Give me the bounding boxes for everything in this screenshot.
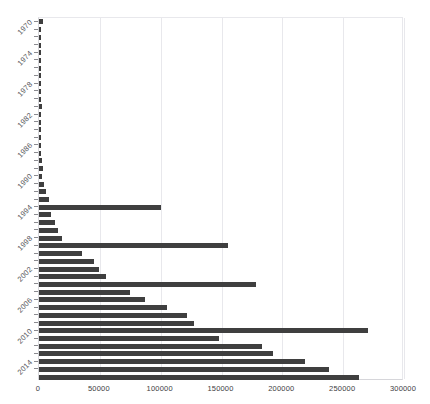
bar-1980: [39, 97, 41, 102]
bar-1985: [39, 135, 41, 140]
gridline-300000: [404, 18, 405, 379]
y-tick-1973: [34, 44, 38, 45]
bar-2007: [39, 305, 167, 310]
bar-1993: [39, 197, 49, 202]
y-tick-2004: [34, 283, 38, 284]
bar-1981: [39, 104, 42, 109]
bar-2010: [39, 328, 368, 333]
y-tick-2013: [34, 353, 38, 354]
y-tick-1979: [34, 90, 38, 91]
bar-1970: [39, 19, 43, 24]
y-axis-label-1998: 1998: [15, 234, 34, 253]
y-tick-1988: [34, 160, 38, 161]
bar-1995: [39, 212, 51, 217]
bar-2008: [39, 313, 187, 318]
y-tick-1975: [34, 59, 38, 60]
x-axis-label-300000: 300000: [390, 384, 416, 393]
bar-2001: [39, 259, 94, 264]
y-axis-label-1982: 1982: [15, 110, 34, 129]
y-tick-2012: [34, 345, 38, 346]
bar-2015: [39, 367, 329, 372]
y-tick-1972: [34, 36, 38, 37]
bar-1975: [39, 58, 41, 63]
bar-1990: [39, 174, 42, 179]
bar-1983: [39, 120, 41, 125]
y-axis-label-2002: 2002: [15, 265, 34, 284]
y-tick-1990: [34, 175, 38, 176]
y-axis-label-1978: 1978: [15, 79, 34, 98]
y-tick-1994: [34, 206, 38, 207]
bar-1994: [39, 205, 161, 210]
bar-2005: [39, 290, 130, 295]
y-tick-1987: [34, 152, 38, 153]
y-tick-1993: [34, 199, 38, 200]
bar-2000: [39, 251, 82, 256]
bar-2013: [39, 351, 273, 356]
bar-1986: [39, 143, 41, 148]
x-axis-label-250000: 250000: [329, 384, 355, 393]
bar-1999: [39, 243, 228, 248]
x-axis-label-50000: 50000: [88, 384, 110, 393]
y-tick-1996: [34, 222, 38, 223]
bar-1974: [39, 50, 41, 55]
bar-1977: [39, 73, 41, 78]
bar-2006: [39, 297, 145, 302]
y-tick-1997: [34, 229, 38, 230]
y-tick-1982: [34, 114, 38, 115]
y-tick-2007: [34, 307, 38, 308]
y-tick-1984: [34, 129, 38, 130]
bar-1998: [39, 236, 62, 241]
bar-2011: [39, 336, 219, 341]
y-tick-2003: [34, 276, 38, 277]
y-tick-1986: [34, 144, 38, 145]
y-tick-1998: [34, 237, 38, 238]
bar-2012: [39, 344, 262, 349]
bar-2002: [39, 267, 99, 272]
x-axis-label-100000: 100000: [147, 384, 173, 393]
y-axis-label-2010: 2010: [15, 327, 34, 346]
bar-1996: [39, 220, 55, 225]
y-tick-1981: [34, 106, 38, 107]
bar-1988: [39, 158, 42, 163]
y-tick-1995: [34, 214, 38, 215]
bar-chart: · · · · · · 1970197419781982198619901994…: [0, 0, 430, 404]
bar-2014: [39, 359, 305, 364]
y-tick-2005: [34, 291, 38, 292]
y-tick-1978: [34, 83, 38, 84]
y-tick-2006: [34, 299, 38, 300]
y-tick-1980: [34, 98, 38, 99]
y-axis-label-1986: 1986: [15, 141, 34, 160]
y-tick-2009: [34, 322, 38, 323]
bar-1973: [39, 43, 41, 48]
bar-1997: [39, 228, 58, 233]
y-axis-label-1994: 1994: [15, 203, 34, 222]
bar-1978: [39, 81, 41, 86]
bar-1972: [39, 35, 41, 40]
bar-series: [39, 18, 402, 379]
bar-1971: [39, 27, 41, 32]
clipped-header-label: · · · · · ·: [28, 0, 60, 2]
bar-2003: [39, 274, 106, 279]
clipped-header-text: · · · · · ·: [0, 0, 430, 9]
bar-2009: [39, 321, 194, 326]
y-tick-2015: [34, 368, 38, 369]
x-axis-label-150000: 150000: [207, 384, 233, 393]
bar-undefined: [39, 375, 359, 380]
y-tick-2002: [34, 268, 38, 269]
bar-1982: [39, 112, 41, 117]
y-axis-label-2014: 2014: [15, 358, 34, 377]
y-tick-1991: [34, 183, 38, 184]
x-axis-label-0: 0: [36, 384, 40, 393]
bar-1989: [39, 166, 43, 171]
y-tick-2010: [34, 330, 38, 331]
y-tick-2008: [34, 314, 38, 315]
bar-1984: [39, 127, 41, 132]
y-tick-1999: [34, 245, 38, 246]
y-tick-2011: [34, 338, 38, 339]
y-tick-2014: [34, 361, 38, 362]
y-tick-2001: [34, 260, 38, 261]
y-tick-2000: [34, 253, 38, 254]
bar-1987: [39, 151, 41, 156]
y-tick-1974: [34, 52, 38, 53]
bar-2004: [39, 282, 256, 287]
